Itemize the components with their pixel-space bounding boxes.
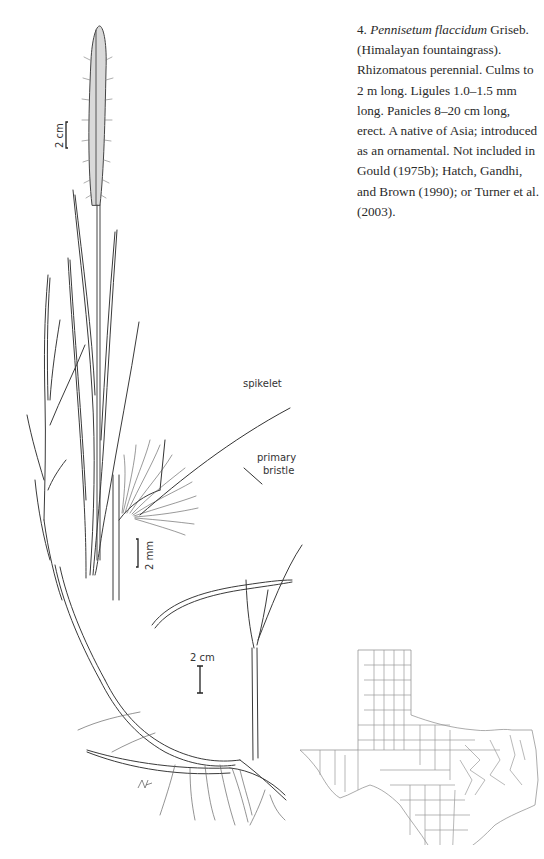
scale-label-panicle: 2 cm — [54, 123, 65, 148]
rhizome-drawing — [87, 750, 286, 800]
scale-label-base: 2 cm — [190, 652, 215, 663]
description-text: (Himalayan fountaingrass). Rhizomatous p… — [357, 42, 539, 219]
scale-bar-graphics — [66, 122, 203, 693]
scale-label-spikelet: 2 mm — [144, 541, 155, 570]
spikelet-detail-drawing — [113, 408, 290, 600]
species-number: 4. — [357, 22, 367, 37]
roots-drawing — [78, 712, 285, 825]
authority: Griseb. — [490, 22, 528, 37]
artist-signature — [138, 780, 152, 788]
label-spikelet: spikelet — [243, 378, 282, 389]
scale-bar-spikelet — [136, 539, 138, 567]
leaves-drawing — [27, 190, 240, 766]
second-shoot-drawing — [152, 545, 302, 760]
scientific-name: Pennisetum flaccidum — [370, 22, 487, 37]
texas-distribution-map — [300, 620, 544, 845]
species-description: 4. Pennisetum flaccidum Griseb. (Himalay… — [357, 20, 541, 222]
scale-bar-base — [197, 666, 203, 693]
label-bristle: bristle — [263, 465, 294, 476]
scale-bar-panicle — [66, 122, 68, 148]
label-primary: primary — [257, 452, 296, 463]
page: 4. Pennisetum flaccidum Griseb. (Himalay… — [0, 0, 544, 859]
plant-illustration — [0, 0, 330, 859]
